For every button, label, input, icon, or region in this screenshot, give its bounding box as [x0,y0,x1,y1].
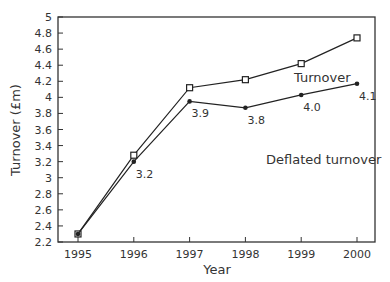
y-tick-label: 3.4 [35,140,53,153]
square-marker [354,35,360,41]
dot-marker [355,81,360,86]
square-marker [187,85,193,91]
y-tick-label: 5 [45,11,52,24]
square-marker [131,152,137,158]
y-axis-title: Turnover (£m) [8,84,23,177]
y-tick-label: 2.6 [35,204,53,217]
y-tick-label: 4.6 [35,43,53,56]
dot-marker [132,159,137,164]
plot-frame [58,17,375,242]
turnover-line [78,38,357,234]
x-axis-title: Year [202,262,231,277]
turnover-series-label: Turnover [293,70,351,85]
y-tick-label: 4.8 [35,27,53,40]
y-tick-label: 4.2 [35,75,53,88]
line-chart: 2.22.42.62.833.23.43.63.844.24.44.64.85 … [0,0,390,282]
y-tick-label: 4 [45,91,52,104]
x-tick-label: 1998 [231,248,259,261]
y-tick-label: 2.8 [35,188,53,201]
series-layer: 3.23.93.84.04.1 [75,35,377,237]
dot-marker [76,232,81,237]
dot-marker [187,99,192,104]
dot-marker [299,93,304,98]
square-marker [298,61,304,67]
y-tick-label: 3.2 [35,156,53,169]
x-tick-label: 1995 [64,248,92,261]
y-tick-label: 2.2 [35,236,53,249]
data-label: 3.8 [247,114,265,127]
y-tick-label: 3.8 [35,107,53,120]
x-axis: 199519961997199819992000 [64,237,371,261]
x-tick-label: 1996 [120,248,148,261]
data-label: 3.9 [192,107,210,120]
data-label: 3.2 [136,168,154,181]
x-tick-label: 1997 [176,248,204,261]
y-tick-label: 2.4 [35,220,53,233]
dot-marker [243,106,248,111]
y-axis: 2.22.42.62.833.23.43.63.844.24.44.64.85 [35,11,64,249]
x-tick-label: 2000 [343,248,371,261]
y-tick-label: 3.6 [35,124,53,137]
deflated-turnover-series-label: Deflated turnover [266,152,382,167]
x-tick-label: 1999 [287,248,315,261]
square-marker [242,77,248,83]
data-label: 4.1 [359,90,377,103]
y-tick-label: 3 [45,172,52,185]
data-label: 4.0 [303,101,321,114]
y-tick-label: 4.4 [35,59,53,72]
